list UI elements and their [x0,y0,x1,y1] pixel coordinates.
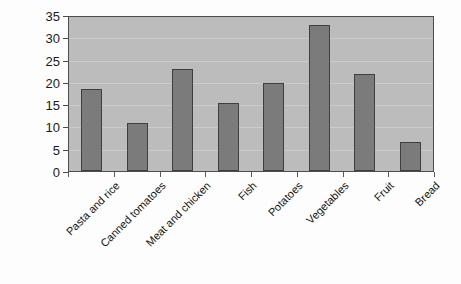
x-axis-tick-mark [343,172,344,177]
bar-slot [115,17,161,171]
bar-slot [251,17,297,171]
plot-area [68,16,434,172]
bar-slot [388,17,434,171]
y-axis-tick-labels: 05101520253035 [30,0,60,284]
x-axis-category-label: Pasta and rice [64,180,122,238]
x-axis-category-label: Canned tomatoes [98,180,167,249]
y-axis-tick-label: 20 [30,76,60,89]
bar-slot [297,17,343,171]
y-axis-tick-label: 5 [30,143,60,156]
x-axis-category-label: Fish [236,180,258,202]
x-axis-category-label: Potatoes [266,180,304,218]
bar-series [69,17,433,171]
x-axis-category-label: Fruit [373,180,396,203]
x-axis-tick-mark [434,172,435,177]
bar-slot [342,17,388,171]
y-axis-tick-label: 15 [30,99,60,112]
y-axis-tick-label: 25 [30,54,60,67]
x-axis-tick-mark [68,172,69,177]
y-axis-tick-label: 10 [30,121,60,134]
bar[interactable] [218,103,239,171]
x-axis-tick-marks [68,172,434,178]
x-axis-tick-mark [160,172,161,177]
y-axis-tick-label: 0 [30,166,60,179]
x-axis-tick-mark [297,172,298,177]
bar[interactable] [263,83,284,171]
y-axis-tick-label: 35 [30,10,60,23]
x-axis-tick-mark [251,172,252,177]
y-axis-tick-label: 30 [30,32,60,45]
x-axis-category-label: Bread [413,180,442,209]
x-axis-category-label: Meat and chicken [144,180,213,249]
bar[interactable] [354,74,375,171]
bar-chart: 05101520253035 Pasta and riceCanned toma… [0,0,461,284]
x-axis-tick-mark [205,172,206,177]
bar-slot [160,17,206,171]
bar[interactable] [309,25,330,171]
bar-slot [206,17,252,171]
bar[interactable] [127,123,148,171]
bar[interactable] [81,89,102,171]
x-axis-tick-mark [114,172,115,177]
x-axis-tick-mark [388,172,389,177]
x-axis-category-label: Vegetables [304,180,350,226]
bar[interactable] [400,142,421,171]
bar-slot [69,17,115,171]
bar[interactable] [172,69,193,172]
